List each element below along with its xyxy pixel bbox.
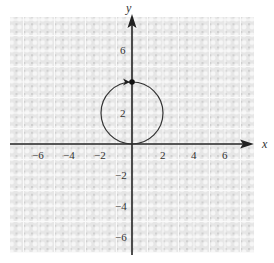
- polar-graph: x y −6 −4 −2 2 4 6 6 2 −2 −4 −6: [0, 0, 274, 263]
- x-tick-label: 6: [222, 149, 228, 161]
- x-axis-label: x: [261, 137, 268, 151]
- x-tick-label: 2: [160, 149, 166, 161]
- y-tick-label: 2: [120, 107, 126, 119]
- x-tick-label: −6: [32, 149, 44, 161]
- y-axis-label: y: [125, 1, 132, 15]
- y-tick-label: −2: [115, 169, 127, 181]
- point-marker: [129, 79, 135, 85]
- x-tick-label: 4: [191, 149, 197, 161]
- y-tick-label: 6: [120, 44, 126, 56]
- y-tick-label: −4: [115, 200, 127, 212]
- y-tick-label: −6: [115, 231, 127, 243]
- x-tick-label: −4: [63, 149, 75, 161]
- x-tick-label: −2: [94, 149, 106, 161]
